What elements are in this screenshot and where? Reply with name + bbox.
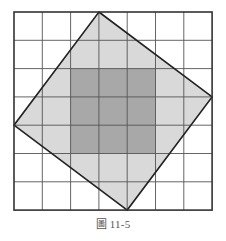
grid-diagram xyxy=(0,0,226,241)
figure-11-5: 圖 11-5 xyxy=(0,0,226,241)
inner-square xyxy=(71,69,156,154)
figure-caption: 圖 11-5 xyxy=(0,215,226,231)
